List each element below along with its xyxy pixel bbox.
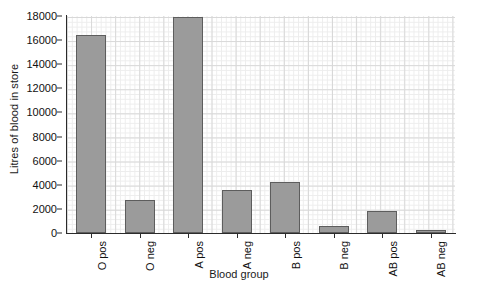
y-axis-tick-mark [57,64,62,65]
y-axis-tick-mark [57,16,62,17]
y-axis-tick-mark [57,208,62,209]
x-axis-tick-label: A neg [241,241,253,269]
y-axis-tick-mark [57,160,62,161]
x-axis-tick-mark [140,233,141,238]
bar-o-neg [125,200,155,233]
y-axis-tick-mark [57,40,62,41]
x-axis-tick-mark [91,233,92,238]
bar-a-pos [173,17,203,233]
y-axis-tick-label: 2000 [33,203,57,215]
y-axis-tick-label: 12000 [26,82,57,94]
bar-o-pos [76,35,106,233]
y-axis-tick-label: 16000 [26,34,57,46]
y-axis-tick-mark [57,88,62,89]
x-axis-tick-label: A pos [193,241,205,269]
x-axis-tick-mark [188,233,189,238]
y-axis-tick-label: 10000 [26,106,57,118]
x-axis-tick-labels: O posO negA posA negB posB negAB posAB n… [67,233,455,291]
x-axis-tick-mark [382,233,383,238]
bar-b-pos [270,182,300,233]
x-axis-tick-label: O pos [96,241,108,270]
x-axis-tick-mark [237,233,238,238]
y-axis-tick-mark [57,184,62,185]
bar-chart-figure: Litres of blood in store 020004000600080… [0,0,478,293]
x-axis-tick-mark [285,233,286,238]
bar-series [67,16,455,233]
bar-a-neg [222,190,252,233]
y-axis-tick-mark [57,233,62,234]
x-axis-tick-label: B neg [338,241,350,270]
y-axis-tick-label: 14000 [26,58,57,70]
x-axis-tick-mark [431,233,432,238]
y-axis-tick-label: 6000 [33,155,57,167]
y-axis-tick-labels: 0200040006000800010000120001400016000180… [18,16,62,233]
x-axis-title: Blood group [0,268,478,280]
bar-b-neg [319,226,349,233]
y-axis-tick-label: 4000 [33,179,57,191]
x-axis-tick-label: O neg [144,241,156,271]
y-axis-tick-label: 8000 [33,131,57,143]
y-axis-tick-mark [57,112,62,113]
y-axis-tick-label: 18000 [26,10,57,22]
y-axis-tick-mark [57,136,62,137]
x-axis-tick-mark [334,233,335,238]
bar-ab-pos [367,211,397,233]
x-axis-tick-label: B pos [290,241,302,269]
